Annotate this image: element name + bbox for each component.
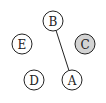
edge-b-a (56, 31, 69, 71)
edges-layer (56, 31, 69, 71)
node-b: B (43, 11, 63, 31)
node-c: C (75, 34, 95, 54)
node-a: A (62, 70, 82, 90)
node-label: B (49, 15, 58, 29)
graph-diagram: ABCDE (0, 0, 106, 103)
node-e: E (12, 34, 32, 54)
nodes-layer: ABCDE (12, 11, 95, 90)
node-label: E (18, 38, 27, 52)
node-label: D (29, 74, 39, 88)
node-label: A (67, 74, 77, 88)
node-d: D (24, 70, 44, 90)
node-label: C (80, 38, 89, 52)
